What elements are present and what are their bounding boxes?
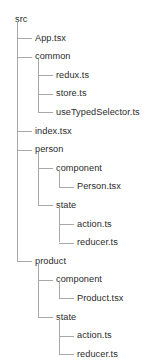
file-label: action.ts [77, 326, 112, 345]
tree-connector-horizontal [38, 168, 53, 169]
tree-root-row[interactable]: src [0, 10, 151, 29]
tree-rail-vertical [59, 282, 60, 299]
tree-connector-horizontal [59, 298, 74, 299]
tree-row[interactable]: action.ts [0, 215, 151, 234]
tree-connector-horizontal [38, 205, 53, 206]
file-label: redux.ts [56, 66, 89, 85]
tree-connector-horizontal [38, 112, 53, 113]
tree-connector-horizontal [17, 150, 32, 151]
tree-connector-horizontal [59, 243, 74, 244]
tree-connector-horizontal [59, 354, 74, 355]
folder-label: product [35, 252, 66, 271]
tree-row[interactable]: redux.ts [0, 66, 151, 85]
tree-connector-horizontal [17, 131, 32, 132]
folder-label: person [35, 140, 63, 159]
tree-row[interactable]: component [0, 159, 151, 178]
tree-row[interactable]: useTypedSelector.ts [0, 103, 151, 122]
tree-row[interactable]: reducer.ts [0, 233, 151, 252]
tree-connector-horizontal [59, 336, 74, 337]
file-label: store.ts [56, 84, 87, 103]
tree-row[interactable]: Product.tsx [0, 289, 151, 308]
tree-row[interactable]: action.ts [0, 326, 151, 345]
tree-connector-horizontal [38, 317, 53, 318]
tree-rail-vertical [38, 263, 39, 317]
tree-row[interactable]: state [0, 196, 151, 215]
tree-rail-vertical [59, 319, 60, 354]
folder-label: component [56, 159, 102, 178]
tree-connector-horizontal [38, 75, 53, 76]
tree-connector-horizontal [38, 94, 53, 95]
folder-label: common [35, 47, 71, 66]
file-label: useTypedSelector.ts [56, 103, 140, 122]
tree-connector-horizontal [17, 261, 32, 262]
tree-connector-horizontal [38, 280, 53, 281]
file-label: Product.tsx [77, 289, 124, 308]
tree-row[interactable]: component [0, 270, 151, 289]
tree-rail-vertical [38, 59, 39, 113]
file-tree: srcApp.tsxcommonredux.tsstore.tsuseTyped… [0, 0, 151, 364]
file-label: App.tsx [35, 29, 66, 48]
tree-connector-horizontal [59, 224, 74, 225]
tree-rail-vertical [59, 170, 60, 187]
file-label: reducer.ts [77, 345, 118, 364]
tree-row[interactable]: Person.tsx [0, 177, 151, 196]
tree-connector-horizontal [17, 57, 32, 58]
tree-rail-vertical [59, 207, 60, 242]
tree-row[interactable]: state [0, 308, 151, 327]
file-label: Person.tsx [77, 177, 121, 196]
tree-rail-vertical [17, 21, 18, 261]
tree-row[interactable]: reducer.ts [0, 345, 151, 364]
tree-rail-vertical [38, 152, 39, 206]
file-label: reducer.ts [77, 233, 118, 252]
tree-connector-horizontal [17, 38, 32, 39]
tree-row[interactable]: store.ts [0, 84, 151, 103]
file-label: action.ts [77, 215, 112, 234]
tree-connector-horizontal [59, 187, 74, 188]
folder-label: component [56, 270, 102, 289]
file-label: index.tsx [35, 122, 72, 141]
